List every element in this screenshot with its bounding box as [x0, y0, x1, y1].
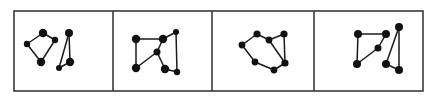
node-dot — [174, 69, 180, 75]
node-dot — [252, 59, 259, 66]
panel-1 — [24, 29, 74, 71]
node-dot — [266, 37, 273, 44]
edge — [69, 33, 70, 62]
puzzle-figure — [0, 0, 436, 98]
node-dot — [52, 37, 58, 43]
node-dot — [66, 58, 74, 66]
panel-4 — [353, 23, 403, 74]
node-dot — [132, 35, 140, 43]
node-dot — [56, 65, 62, 71]
node-dot — [39, 29, 47, 37]
panel-2 — [132, 29, 180, 75]
node-dot — [37, 58, 45, 66]
node-dot — [132, 64, 140, 72]
node-dot — [65, 29, 73, 37]
edge — [284, 34, 285, 63]
node-dot — [24, 41, 30, 47]
node-dot — [395, 66, 403, 74]
node-dot — [239, 42, 246, 49]
node-dot — [280, 30, 287, 37]
node-dot — [353, 60, 361, 68]
node-dot — [271, 67, 278, 74]
node-dot — [281, 59, 288, 66]
figure-frame — [14, 11, 423, 91]
node-dot — [154, 49, 161, 56]
node-dot — [375, 45, 382, 52]
node-dot — [173, 29, 179, 35]
node-dot — [161, 65, 169, 73]
node-dot — [395, 23, 403, 31]
panel-3 — [239, 30, 289, 73]
edge — [357, 34, 358, 64]
panels — [24, 23, 403, 75]
node-dot — [354, 30, 362, 38]
node-dot — [382, 60, 390, 68]
node-dot — [159, 35, 167, 43]
edge — [269, 40, 285, 63]
edge — [176, 32, 177, 72]
node-dot — [382, 30, 390, 38]
node-dot — [253, 30, 260, 37]
